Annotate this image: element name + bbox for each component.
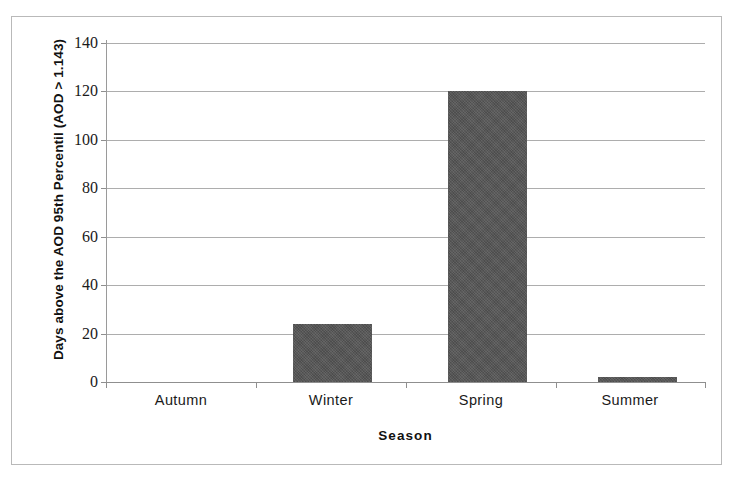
y-tick-label-0: 0 <box>54 374 98 390</box>
x-tick-label-summer: Summer <box>550 392 710 408</box>
y-tick-mark-80 <box>101 188 106 189</box>
y-axis-title: Days above the AOD 95th Percentil (AOD >… <box>51 30 66 370</box>
y-tick-mark-140 <box>101 43 106 44</box>
bar-winter[interactable] <box>293 324 372 382</box>
plot-area <box>106 43 705 382</box>
y-axis-line <box>106 40 107 385</box>
y-tick-mark-20 <box>101 334 106 335</box>
x-tick-mark-4 <box>705 382 706 388</box>
gridline-60 <box>106 237 705 238</box>
bar-summer[interactable] <box>598 377 677 382</box>
gridline-40 <box>106 285 705 286</box>
gridline-140 <box>106 43 705 44</box>
gridline-80 <box>106 188 705 189</box>
x-tick-mark-3 <box>556 382 557 388</box>
bar-chart: 140 120 100 80 60 40 20 0 Autumn Winter … <box>0 0 741 484</box>
y-tick-mark-40 <box>101 285 106 286</box>
gridline-120 <box>106 91 705 92</box>
x-tick-label-spring: Spring <box>401 392 561 408</box>
bar-spring[interactable] <box>448 91 527 382</box>
x-tick-label-autumn: Autumn <box>101 392 261 408</box>
x-axis-title: Season <box>106 428 705 443</box>
x-tick-mark-2 <box>406 382 407 388</box>
gridline-20 <box>106 334 705 335</box>
x-tick-label-winter: Winter <box>251 392 411 408</box>
y-tick-mark-100 <box>101 140 106 141</box>
x-tick-mark-1 <box>256 382 257 388</box>
y-tick-mark-120 <box>101 91 106 92</box>
y-tick-mark-60 <box>101 237 106 238</box>
gridline-100 <box>106 140 705 141</box>
x-tick-mark-0 <box>106 382 107 388</box>
